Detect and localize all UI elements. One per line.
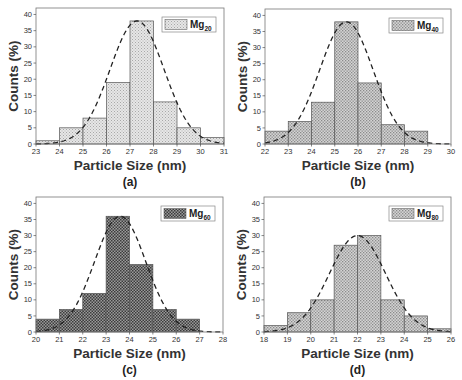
x-axis-label: Particle Size (nm) — [73, 346, 186, 361]
y-axis-label: Counts (%) — [6, 40, 21, 111]
y-tick-label: 30 — [252, 231, 260, 240]
x-tick-label: 23 — [377, 335, 385, 344]
x-tick-label: 31 — [220, 147, 228, 156]
x-tick-label: 24 — [55, 147, 63, 156]
x-axis-label: Particle Size (nm) — [302, 158, 415, 173]
histogram-bar — [130, 265, 153, 333]
legend-swatch — [392, 209, 414, 219]
histogram-bar — [312, 102, 335, 144]
x-tick-label: 21 — [55, 335, 63, 344]
histogram-bar — [335, 22, 358, 144]
x-tick-label: 22 — [261, 147, 269, 156]
legend: Mg60 — [161, 206, 215, 221]
x-tick-label: 29 — [173, 147, 181, 156]
histogram-bar — [358, 236, 381, 332]
histogram-bar — [83, 293, 106, 332]
x-tick-label: 23 — [102, 335, 110, 344]
y-tick-label: 5 — [256, 312, 260, 321]
histogram-bar — [83, 118, 107, 144]
histogram-bars — [36, 21, 224, 144]
histogram-bars — [36, 216, 200, 332]
x-axis: 222324252627282930 — [261, 144, 455, 156]
x-tick-label: 25 — [423, 335, 431, 344]
y-axis-label: Counts (%) — [235, 41, 250, 112]
histogram-bar — [59, 310, 82, 333]
y-tick-label: 30 — [24, 42, 32, 51]
y-tick-label: 5 — [257, 124, 261, 133]
panel-label: (c) — [122, 363, 137, 377]
legend: Mg20 — [162, 17, 216, 32]
y-axis: 0510152025303540 — [24, 10, 36, 149]
y-tick-label: 35 — [24, 26, 32, 35]
y-tick-label: 5 — [28, 123, 32, 132]
y-tick-label: 40 — [253, 11, 261, 20]
chart-panel-c: 0510152025303540202122232425262728Partic… — [6, 197, 227, 377]
y-tick-label: 35 — [24, 215, 32, 224]
histogram-bar — [381, 125, 404, 144]
y-tick-label: 5 — [28, 312, 32, 321]
x-tick-label: 23 — [284, 147, 292, 156]
y-axis: 0510152025303540 — [252, 199, 264, 337]
y-tick-label: 25 — [24, 247, 32, 256]
x-tick-label: 20 — [307, 335, 315, 344]
x-axis: 181920212223242526 — [260, 332, 455, 344]
x-tick-label: 26 — [102, 147, 110, 156]
histogram-bar — [107, 82, 131, 144]
x-tick-label: 19 — [283, 335, 291, 344]
x-tick-label: 27 — [377, 147, 385, 156]
histogram-bar — [404, 316, 427, 332]
x-tick-label: 22 — [353, 335, 361, 344]
y-tick-label: 30 — [253, 43, 261, 52]
x-tick-label: 22 — [79, 335, 87, 344]
y-tick-label: 35 — [253, 27, 261, 36]
y-tick-label: 20 — [24, 263, 32, 272]
histogram-bars — [264, 236, 451, 332]
y-tick-label: 40 — [24, 199, 32, 208]
chart-panel-b: 0510152025303540222324252627282930Partic… — [235, 9, 455, 189]
y-axis-label: Counts (%) — [234, 229, 249, 300]
y-tick-label: 15 — [24, 279, 32, 288]
y-tick-label: 10 — [24, 295, 32, 304]
x-tick-label: 26 — [172, 335, 180, 344]
histogram-bar — [154, 102, 178, 144]
histogram-bar — [358, 83, 381, 144]
x-tick-label: 24 — [125, 335, 133, 344]
x-tick-label: 21 — [330, 335, 338, 344]
x-tick-label: 28 — [400, 147, 408, 156]
y-tick-label: 10 — [253, 107, 261, 116]
figure: 0510152025303540232425262728293031Partic… — [0, 0, 462, 380]
histogram-bar — [153, 310, 176, 333]
histogram-bar — [287, 313, 310, 332]
panel-label: (d) — [350, 363, 365, 377]
x-tick-label: 26 — [447, 335, 455, 344]
x-tick-label: 30 — [196, 147, 204, 156]
y-tick-label: 40 — [24, 10, 32, 19]
histogram-bar — [176, 319, 199, 332]
y-tick-label: 15 — [24, 91, 32, 100]
x-tick-label: 25 — [149, 335, 157, 344]
histogram-bar — [405, 131, 428, 144]
y-tick-label: 15 — [252, 279, 260, 288]
histogram-bar — [201, 138, 225, 144]
chart-panel-d: 0510152025303540181920212223242526Partic… — [234, 197, 455, 377]
x-tick-label: 27 — [126, 147, 134, 156]
x-axis-label: Particle Size (nm) — [301, 346, 414, 361]
y-tick-label: 10 — [252, 295, 260, 304]
histogram-bar — [288, 122, 311, 145]
histogram-bar — [106, 216, 129, 332]
y-axis: 0510152025303540 — [253, 11, 265, 149]
x-tick-label: 26 — [354, 147, 362, 156]
y-tick-label: 20 — [252, 263, 260, 272]
y-tick-label: 20 — [253, 75, 261, 84]
legend-swatch — [164, 209, 186, 219]
x-tick-label: 25 — [331, 147, 339, 156]
x-tick-label: 24 — [400, 335, 408, 344]
y-tick-label: 30 — [24, 231, 32, 240]
x-axis-label: Particle Size (nm) — [74, 158, 187, 173]
y-tick-label: 40 — [252, 199, 260, 208]
chart-panel-a: 0510152025303540232425262728293031Partic… — [6, 8, 228, 189]
y-axis: 0510152025303540 — [24, 199, 36, 337]
x-tick-label: 18 — [260, 335, 268, 344]
x-tick-label: 30 — [447, 147, 455, 156]
legend-swatch — [392, 21, 414, 31]
